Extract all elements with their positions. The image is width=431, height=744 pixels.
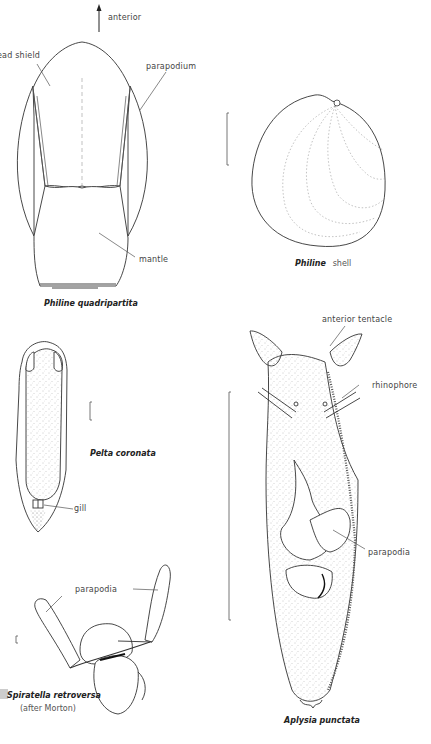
caption-pelta-coronata: Pelta coronata — [90, 450, 156, 458]
caption-philine-shell: Philine shell — [295, 259, 351, 268]
label-parapodium: parapodium — [146, 62, 196, 71]
label-mantle: mantle — [139, 255, 168, 264]
label-spiratella-parapodia: parapodia — [75, 585, 117, 594]
caption-spiratella-credit: (after Morton) — [20, 704, 76, 713]
label-anterior-tentacle: anterior tentacle — [322, 315, 392, 324]
label-anterior: anterior — [108, 13, 141, 22]
caption-philine-genus: Philine — [295, 259, 326, 268]
caption-philine-quadripartita: Philine quadripartita — [44, 299, 138, 308]
aplysia-punctata-figure — [229, 326, 365, 708]
philine-quadripartita-figure — [17, 4, 166, 288]
philine-shell-figure — [227, 95, 386, 247]
label-gill: gill — [74, 504, 87, 513]
caption-aplysia-punctata: Aplysia punctata — [284, 716, 360, 725]
label-aplysia-parapodia: parapodia — [368, 548, 410, 557]
label-rhinophore: rhinophore — [372, 381, 417, 390]
plate-illustrations — [0, 0, 431, 744]
caption-philine-shell-word: shell — [333, 259, 352, 268]
label-head-shield: ead shield — [0, 51, 40, 60]
caption-spiratella-retroversa: Spiratella retroversa — [7, 691, 101, 700]
